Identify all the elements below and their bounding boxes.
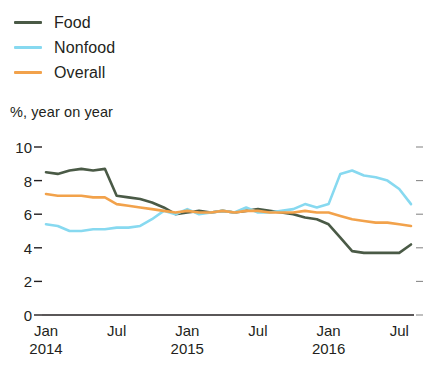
x-tick-label: Jan2015	[171, 322, 204, 358]
legend-item-food: Food	[14, 10, 214, 35]
legend-item-nonfood: Nonfood	[14, 35, 214, 60]
y-tick-label: 2	[24, 273, 32, 290]
legend-label-overall: Overall	[54, 65, 105, 81]
x-tick-label-month: Jul	[390, 322, 409, 340]
y-tick-label: 4	[24, 239, 32, 256]
y-tick-label: 8	[24, 172, 32, 189]
x-tick-label: Jan2014	[29, 322, 62, 358]
chart-figure: Food Nonfood Overall %, year on year 024…	[0, 0, 424, 370]
chart-legend: Food Nonfood Overall	[14, 10, 214, 85]
y-tick-label: 10	[15, 139, 32, 156]
x-tick-label-year: 2014	[29, 340, 62, 358]
series-line-nonfood	[46, 171, 411, 231]
x-tick-label-month: Jul	[107, 322, 126, 340]
legend-label-nonfood: Nonfood	[54, 40, 115, 56]
x-tick-label-month: Jan	[312, 322, 345, 340]
y-axis-tick-marks-right	[416, 147, 423, 315]
chart-series-group	[46, 169, 411, 253]
x-tick-label: Jan2016	[312, 322, 345, 358]
x-tick-label-month: Jan	[171, 322, 204, 340]
x-tick-label-month: Jul	[248, 322, 267, 340]
y-axis-tick-marks	[34, 147, 42, 315]
legend-item-overall: Overall	[14, 60, 214, 85]
x-tick-label-month: Jan	[29, 322, 62, 340]
x-tick-label-year: 2016	[312, 340, 345, 358]
x-tick-label: Jul	[390, 322, 409, 340]
legend-label-food: Food	[54, 15, 91, 31]
x-tick-label: Jul	[107, 322, 126, 340]
y-tick-label: 6	[24, 206, 32, 223]
y-axis-tick-labels: 0246810	[0, 0, 32, 370]
x-tick-label: Jul	[248, 322, 267, 340]
y-tick-label: 0	[24, 307, 32, 324]
x-tick-label-year: 2015	[171, 340, 204, 358]
series-line-overall	[46, 194, 411, 226]
